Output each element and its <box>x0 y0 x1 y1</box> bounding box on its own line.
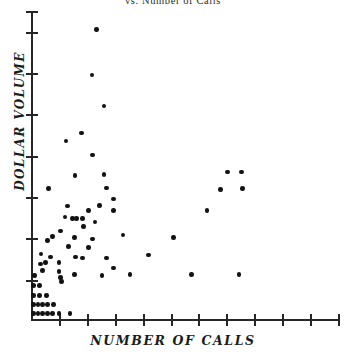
data-point <box>45 238 50 243</box>
data-point <box>171 235 176 240</box>
data-point <box>102 104 107 109</box>
data-point <box>68 311 73 316</box>
data-point <box>100 273 105 278</box>
data-point <box>81 224 86 229</box>
data-point <box>57 269 62 274</box>
data-point <box>102 172 107 177</box>
scatter-plot-figure: vs. Number of Calls NUMBER OF CALLS DOLL… <box>0 0 346 352</box>
data-point <box>86 245 91 250</box>
data-point <box>32 273 37 278</box>
data-point <box>44 293 49 298</box>
data-point <box>111 266 116 271</box>
data-point <box>40 311 45 316</box>
data-point <box>31 302 36 307</box>
data-point <box>40 268 45 273</box>
data-point <box>90 73 95 78</box>
data-point <box>46 186 51 191</box>
data-point <box>73 173 78 178</box>
data-point <box>66 244 71 249</box>
data-point <box>58 229 63 234</box>
data-point <box>146 253 151 258</box>
data-point <box>51 302 56 307</box>
data-point <box>128 272 133 277</box>
data-point <box>37 283 42 288</box>
data-point <box>218 187 223 192</box>
data-point <box>48 255 53 260</box>
data-point <box>57 260 62 265</box>
data-point <box>90 153 95 158</box>
data-point <box>239 170 244 175</box>
chart-title: vs. Number of Calls <box>0 0 346 8</box>
data-point <box>50 234 55 239</box>
data-point <box>57 311 62 316</box>
data-point <box>86 208 91 213</box>
data-point <box>72 272 77 277</box>
data-point <box>240 186 245 191</box>
data-point <box>205 208 210 213</box>
data-point <box>38 262 43 267</box>
plot-data-area <box>31 11 338 321</box>
y-axis-label: DOLLAR VOLUME <box>13 41 27 201</box>
data-point <box>121 233 126 238</box>
data-point <box>31 311 36 316</box>
data-point <box>74 216 79 221</box>
data-point <box>111 197 116 202</box>
y-axis-label-container: DOLLAR VOLUME <box>13 41 31 201</box>
data-point <box>65 204 70 209</box>
data-point <box>31 293 36 298</box>
data-point <box>104 186 109 191</box>
data-point <box>63 215 68 220</box>
data-point <box>40 302 45 307</box>
data-point <box>237 272 242 277</box>
data-point <box>104 256 109 261</box>
data-point <box>31 283 36 288</box>
data-point <box>111 208 116 213</box>
data-point <box>189 272 194 277</box>
x-axis-label: NUMBER OF CALLS <box>0 333 346 348</box>
data-point <box>80 256 85 261</box>
data-point <box>37 293 42 298</box>
data-point <box>64 139 69 144</box>
data-point <box>79 131 84 136</box>
data-point <box>50 311 55 316</box>
data-point <box>93 220 98 225</box>
data-point <box>39 252 44 257</box>
data-point <box>90 237 95 242</box>
data-point <box>59 279 64 284</box>
data-point <box>80 216 85 221</box>
data-point <box>225 170 230 175</box>
data-point <box>97 203 102 208</box>
data-point <box>45 311 50 316</box>
data-point <box>94 27 99 32</box>
data-point <box>73 255 78 260</box>
x-axis-tick <box>338 314 340 326</box>
data-point <box>43 260 48 265</box>
data-point <box>72 235 77 240</box>
data-point <box>45 302 50 307</box>
